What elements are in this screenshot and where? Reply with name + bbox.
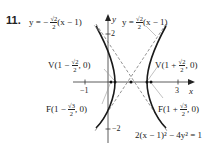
y-axis-label: y — [112, 14, 116, 24]
asymptote-right-suffix: (x − 1) — [143, 17, 168, 27]
asymptote-left-label: y = − √22(x − 1) — [29, 15, 82, 30]
x-axis-arrow-icon — [188, 79, 195, 85]
vertex-right-prefix: V(1 + — [155, 60, 176, 70]
focus-right-prefix: F(1 + — [158, 104, 178, 114]
vertex-left-label: V(1 − √22, 0) — [48, 58, 90, 73]
problem-number: 11. — [6, 15, 21, 25]
hyperbola-left-branch — [96, 26, 115, 128]
asymptote-right-label: y = √22(x − 1) — [122, 15, 167, 30]
y-tick-2: 2 — [111, 29, 115, 39]
y-axis-arrow-icon — [105, 14, 111, 21]
x-tick-3: 3 — [175, 86, 179, 96]
asymptote-right-fraction: √22 — [136, 15, 143, 30]
asymptote-left-suffix: (x − 1) — [57, 17, 82, 27]
x-tick-neg1: −1 — [80, 86, 89, 96]
focus-right-fraction: √32 — [180, 102, 187, 117]
asymptote-right-prefix: y = — [122, 17, 134, 27]
vertex-left-prefix: V(1 − — [48, 60, 69, 70]
focus-left-fraction: √32 — [68, 102, 75, 117]
focus-left-suffix: , 0) — [75, 104, 87, 114]
hyperbola-equation: 2(x − 1)² − 4y² = 1 — [135, 130, 202, 140]
asymptote-left-prefix: y = − — [29, 17, 48, 27]
vertex-right-label: V(1 + √22, 0) — [155, 58, 197, 73]
vertex-right-suffix: , 0) — [185, 60, 197, 70]
focus-left-prefix: F(1 − — [46, 104, 66, 114]
key-points — [110, 81, 153, 84]
x-axis-label: x — [189, 86, 193, 96]
vertex-left-suffix: , 0) — [78, 60, 90, 70]
focus-right-suffix: , 0) — [187, 104, 199, 114]
focus-right-label: F(1 + √32, 0) — [158, 102, 199, 117]
y-tick-neg2: −2 — [112, 124, 121, 134]
focus-left-label: F(1 − √32, 0) — [46, 102, 87, 117]
